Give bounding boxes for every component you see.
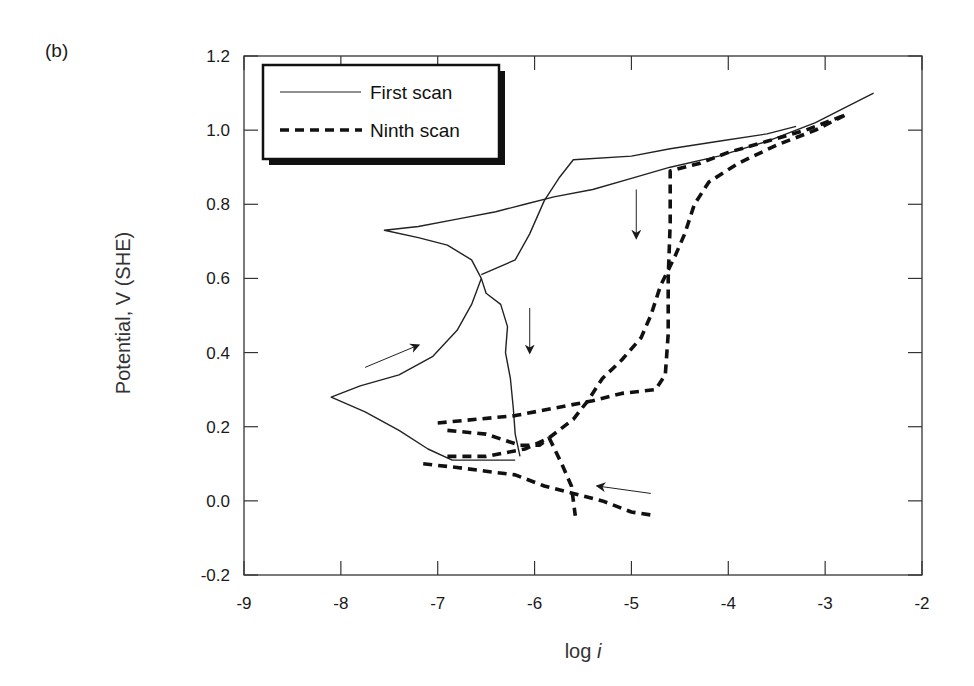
direction-arrow-icon [598,486,651,493]
x-tick-label: -8 [333,594,348,613]
direction-arrow-icon [365,345,418,367]
x-axis-title: log i [565,640,602,662]
y-axis-title: Potential, V (SHE) [112,232,134,394]
ninth-scan-line [447,115,844,456]
x-tick-label: -7 [430,594,445,613]
ninth-scan-line [549,438,575,516]
x-tick-label: -3 [818,594,833,613]
y-tick-label: 1.0 [206,121,230,140]
y-tick-label: 0.6 [206,269,230,288]
y-tick-label: -0.2 [201,566,230,585]
x-tick-label: -9 [236,594,251,613]
first-scan-line [481,278,520,456]
ninth-scan-line [447,430,549,445]
y-tick-label: 1.2 [206,47,230,66]
polarization-chart: -9-8-7-6-5-4-3-2-0.20.00.20.40.60.81.01.… [0,0,974,686]
y-tick-label: 0.4 [206,344,230,363]
y-tick-label: 0.8 [206,195,230,214]
x-tick-label: -2 [914,594,929,613]
y-tick-label: 0.2 [206,418,230,437]
x-tick-label: -6 [527,594,542,613]
y-tick-label: 0.0 [206,492,230,511]
first-scan-line [481,126,796,274]
legend-first-scan: First scan [370,82,452,103]
legend: First scan Ninth scan [263,65,505,165]
x-tick-label: -4 [721,594,736,613]
x-tick-label: -5 [624,594,639,613]
legend-ninth-scan: Ninth scan [370,120,460,141]
legend-box [263,65,499,159]
